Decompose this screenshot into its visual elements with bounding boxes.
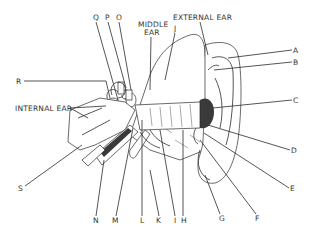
label-o: O bbox=[116, 13, 122, 22]
label-b: B bbox=[293, 58, 298, 67]
label-s: S bbox=[18, 184, 23, 193]
label-p: P bbox=[105, 13, 110, 22]
label-a: A bbox=[293, 46, 299, 55]
ear-illustration bbox=[68, 34, 241, 183]
label-e: E bbox=[290, 184, 295, 193]
label-d: D bbox=[291, 146, 297, 155]
label-h: H bbox=[181, 216, 187, 225]
label-k: K bbox=[156, 216, 162, 225]
label-l: L bbox=[140, 216, 145, 225]
label-j: J bbox=[173, 24, 176, 33]
label-r: R bbox=[16, 77, 21, 86]
label-m: M bbox=[112, 216, 119, 225]
label-n: N bbox=[93, 216, 99, 225]
label-i: I bbox=[174, 216, 176, 225]
label-internal-ear: INTERNAL EAR bbox=[15, 104, 72, 113]
label-c: C bbox=[293, 96, 298, 105]
ear-anatomy-diagram: Q P O MIDDLE EAR J EXTERNAL EAR A B C D … bbox=[0, 0, 310, 239]
label-g: G bbox=[219, 214, 225, 223]
label-f: F bbox=[255, 214, 260, 223]
label-external-ear: EXTERNAL EAR bbox=[173, 13, 232, 22]
label-middle-ear-line2: EAR bbox=[144, 28, 160, 37]
label-q: Q bbox=[93, 13, 99, 22]
